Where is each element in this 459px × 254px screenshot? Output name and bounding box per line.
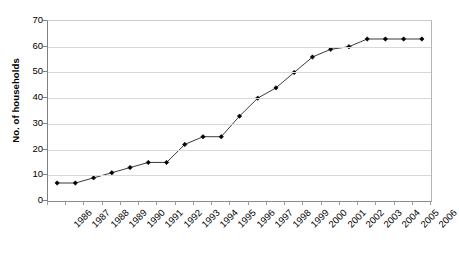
series-line-no-of-households — [48, 21, 431, 201]
y-axis-tick-labels: 010203040506070 — [24, 0, 43, 254]
x-tick-label-1997: 1997 — [272, 207, 295, 230]
data-point-2005 — [401, 37, 405, 41]
x-tick-label-2002: 2002 — [363, 207, 386, 230]
x-tick-label-1992: 1992 — [181, 207, 204, 230]
x-tick-label-1999: 1999 — [308, 207, 331, 230]
x-tick-label-1991: 1991 — [162, 207, 185, 230]
x-tickmark-21 — [430, 201, 431, 205]
data-point-2006 — [420, 37, 424, 41]
x-tickmark-0 — [47, 201, 48, 205]
x-tickmark-6 — [156, 201, 157, 205]
data-point-1988 — [91, 176, 95, 180]
x-tick-label-2001: 2001 — [345, 207, 368, 230]
y-tickmark-30 — [43, 123, 47, 124]
series-markers — [55, 37, 424, 185]
gridline-40 — [48, 98, 431, 99]
y-axis-title-label: No. of households — [10, 58, 21, 143]
data-point-1987 — [73, 181, 77, 185]
x-tickmark-9 — [211, 201, 212, 205]
y-tickmark-50 — [43, 71, 47, 72]
data-point-1994 — [201, 135, 205, 139]
y-tick-label-50: 50 — [27, 66, 43, 76]
x-tick-label-1990: 1990 — [144, 207, 167, 230]
x-tickmark-11 — [248, 201, 249, 205]
gridline-50 — [48, 72, 431, 73]
x-tickmark-3 — [102, 201, 103, 205]
gridline-30 — [48, 124, 431, 125]
x-tickmark-2 — [83, 201, 84, 205]
x-tickmark-7 — [175, 201, 176, 205]
x-tickmark-18 — [375, 201, 376, 205]
y-tickmark-40 — [43, 97, 47, 98]
y-tickmark-10 — [43, 174, 47, 175]
y-tick-label-0: 0 — [27, 195, 43, 205]
data-point-1990 — [128, 165, 132, 169]
x-tick-label-2003: 2003 — [381, 207, 404, 230]
x-tick-label-2005: 2005 — [418, 207, 441, 230]
x-tickmark-20 — [412, 201, 413, 205]
gridline-10 — [48, 175, 431, 176]
x-tickmark-15 — [321, 201, 322, 205]
x-tick-label-2004: 2004 — [400, 207, 423, 230]
y-tick-label-70: 70 — [27, 15, 43, 25]
x-tick-label-1994: 1994 — [217, 207, 240, 230]
x-tickmark-17 — [357, 201, 358, 205]
x-tick-label-1993: 1993 — [199, 207, 222, 230]
plot-area — [47, 20, 432, 202]
x-tick-label-1986: 1986 — [71, 207, 94, 230]
y-tickmark-60 — [43, 46, 47, 47]
x-tick-label-1987: 1987 — [90, 207, 113, 230]
x-tickmark-13 — [284, 201, 285, 205]
x-tick-label-1996: 1996 — [254, 207, 277, 230]
x-tick-label-2006: 2006 — [436, 207, 459, 230]
x-tickmark-12 — [266, 201, 267, 205]
x-tick-label-2000: 2000 — [327, 207, 350, 230]
x-tickmark-4 — [120, 201, 121, 205]
x-tickmark-14 — [302, 201, 303, 205]
y-tick-label-40: 40 — [27, 92, 43, 102]
x-tick-label-1995: 1995 — [235, 207, 258, 230]
y-tick-label-30: 30 — [27, 118, 43, 128]
y-tickmark-70 — [43, 20, 47, 21]
x-tickmark-10 — [229, 201, 230, 205]
x-tickmark-8 — [193, 201, 194, 205]
gridline-20 — [48, 150, 431, 151]
data-point-1989 — [110, 171, 114, 175]
x-tickmark-5 — [138, 201, 139, 205]
x-tick-label-1989: 1989 — [126, 207, 149, 230]
gridline-60 — [48, 47, 431, 48]
y-tick-label-10: 10 — [27, 169, 43, 179]
y-tick-label-20: 20 — [27, 144, 43, 154]
x-tickmark-19 — [394, 201, 395, 205]
y-tick-label-60: 60 — [27, 41, 43, 51]
x-tick-label-1998: 1998 — [290, 207, 313, 230]
data-point-1986 — [55, 181, 59, 185]
data-point-2001 — [328, 47, 332, 51]
series-polyline — [57, 39, 422, 183]
data-point-2003 — [365, 37, 369, 41]
x-tickmark-16 — [339, 201, 340, 205]
x-tick-label-1988: 1988 — [108, 207, 131, 230]
data-point-1991 — [146, 160, 150, 164]
data-point-2004 — [383, 37, 387, 41]
y-tickmark-20 — [43, 149, 47, 150]
x-tickmark-1 — [65, 201, 66, 205]
